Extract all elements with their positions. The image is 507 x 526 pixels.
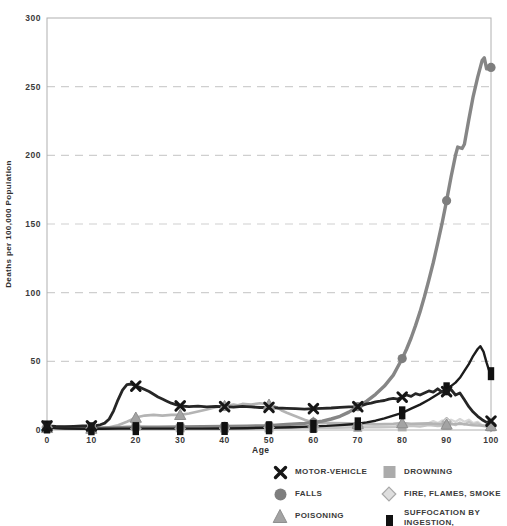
legend-item-falls: FALLS bbox=[272, 486, 367, 502]
y-tick-label: 250 bbox=[25, 82, 41, 92]
y-axis-title: Deaths per 100,000 Population bbox=[4, 160, 13, 288]
legend-item-poisoning: POISONING bbox=[272, 508, 367, 524]
triangle-marker-icon bbox=[272, 508, 288, 524]
vrect-marker bbox=[133, 422, 139, 435]
legend-label-fire-flames-smoke: FIRE, FLAMES, SMOKE bbox=[404, 489, 501, 499]
vrect-marker bbox=[488, 367, 494, 380]
vrect-marker bbox=[266, 421, 272, 434]
legend-item-suffocation: SUFFOCATION BY INGESTION, INHALATION bbox=[381, 508, 507, 526]
circle-marker-icon bbox=[272, 486, 288, 502]
circle-marker bbox=[442, 196, 451, 205]
y-tick-label: 100 bbox=[25, 288, 41, 298]
x-tick-label: 50 bbox=[264, 435, 274, 445]
legend-label-motor-vehicle: MOTOR-VEHICLE bbox=[295, 467, 367, 477]
vrect-marker bbox=[177, 422, 183, 435]
x-tick-label: 70 bbox=[353, 435, 363, 445]
y-tick-label: 150 bbox=[25, 219, 41, 229]
x-marker-icon bbox=[272, 464, 288, 480]
legend-label-suffocation: SUFFOCATION BY INGESTION, INHALATION bbox=[404, 508, 507, 526]
vrect-marker bbox=[399, 406, 405, 419]
x-tick-label: 30 bbox=[175, 435, 185, 445]
y-tick-label: 200 bbox=[25, 150, 41, 160]
circle-marker bbox=[398, 354, 407, 363]
vrect-marker bbox=[355, 417, 361, 430]
legend-item-motor-vehicle: MOTOR-VEHICLE bbox=[272, 464, 367, 480]
vrect-marker bbox=[310, 420, 316, 433]
x-axis-title: Age bbox=[252, 445, 270, 455]
chart-legend-column-1: MOTOR-VEHICLE FALLS POISONING bbox=[272, 464, 367, 524]
legend-item-drowning: DROWNING bbox=[381, 464, 507, 480]
x-tick-label: 10 bbox=[86, 435, 96, 445]
x-tick-label: 40 bbox=[219, 435, 229, 445]
legend-label-drowning: DROWNING bbox=[404, 467, 453, 477]
x-tick-label: 90 bbox=[441, 435, 451, 445]
chart-legend-column-2: DROWNING FIRE, FLAMES, SMOKE SUFFOCATION… bbox=[381, 464, 507, 526]
x-tick-label: 0 bbox=[44, 435, 49, 445]
plot-frame bbox=[47, 18, 491, 430]
bar-marker-icon bbox=[381, 514, 397, 526]
chart-canvas: 0501001502002503000102030405060708090100… bbox=[0, 0, 507, 526]
x-tick-label: 100 bbox=[483, 435, 499, 445]
circle-marker bbox=[486, 63, 495, 72]
y-tick-label: 50 bbox=[31, 356, 41, 366]
y-tick-label: 0 bbox=[36, 425, 41, 435]
x-tick-label: 20 bbox=[131, 435, 141, 445]
square-marker-icon bbox=[381, 464, 397, 480]
x-tick-label: 80 bbox=[397, 435, 407, 445]
legend-label-poisoning: POISONING bbox=[295, 511, 344, 521]
legend-item-fire-flames-smoke: FIRE, FLAMES, SMOKE bbox=[381, 486, 507, 502]
y-tick-label: 300 bbox=[25, 13, 41, 23]
vrect-marker bbox=[221, 422, 227, 435]
series-line-suffocation bbox=[47, 346, 491, 429]
diamond-marker-icon bbox=[381, 486, 397, 502]
series-line-falls bbox=[47, 58, 491, 429]
x-tick-label: 60 bbox=[308, 435, 318, 445]
legend-label-falls: FALLS bbox=[295, 489, 322, 499]
